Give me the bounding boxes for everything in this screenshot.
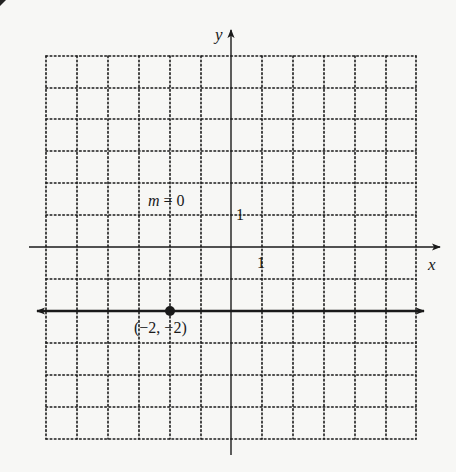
x-tick-label: 1 (257, 254, 265, 271)
point-label: (−2, −2) (134, 319, 187, 337)
corner-mark (0, 0, 6, 6)
y-tick-label: 1 (236, 206, 244, 223)
x-axis-label: x (427, 255, 436, 274)
point-neg2-neg2 (165, 306, 175, 316)
coordinate-graph: y x 1 1 m = 0 (−2, −2) (0, 0, 456, 472)
slope-annotation: m = 0 (148, 192, 185, 209)
y-axis-label: y (213, 25, 223, 44)
